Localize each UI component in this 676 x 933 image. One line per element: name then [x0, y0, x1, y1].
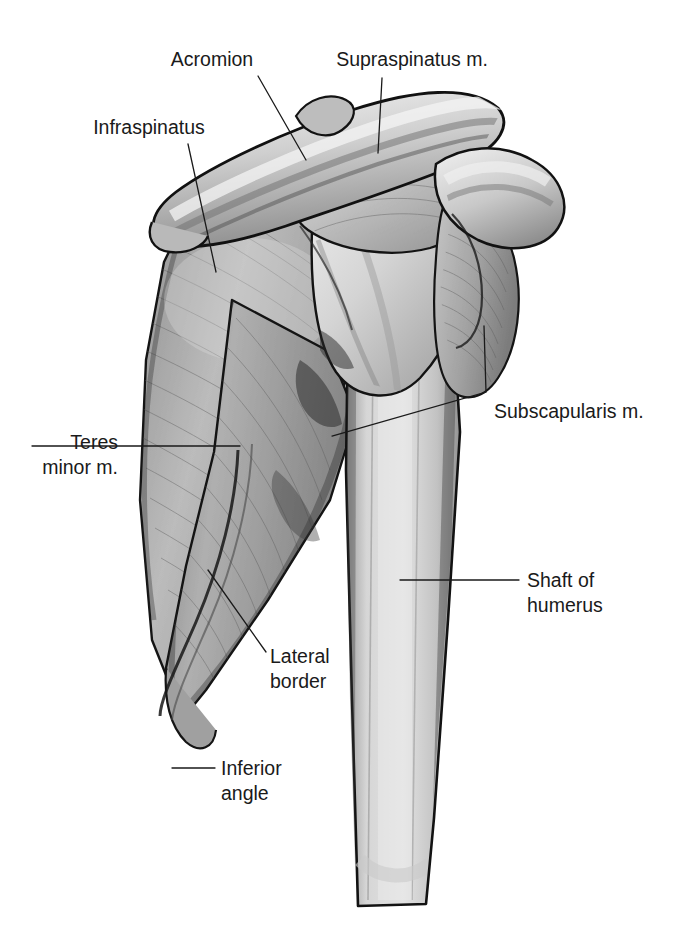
- anatomical-illustration: Acromion Supraspinatus m. Infraspinatus …: [0, 0, 676, 933]
- label-acromion: Acromion: [171, 48, 253, 70]
- label-infraspinatus: Infraspinatus: [93, 116, 205, 138]
- label-supraspinatus: Supraspinatus m.: [336, 48, 488, 70]
- label-subscapularis: Subscapularis m.: [494, 400, 644, 422]
- anatomy-canvas: Acromion Supraspinatus m. Infraspinatus …: [0, 0, 676, 933]
